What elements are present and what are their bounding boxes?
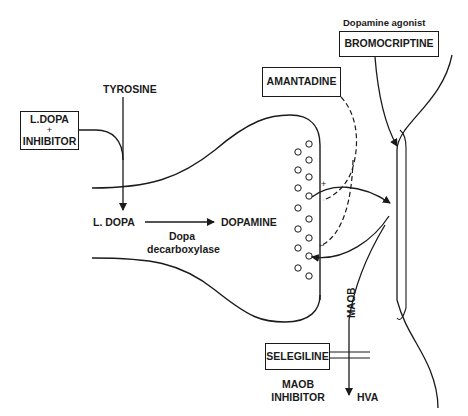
- diagram-canvas: [0, 0, 468, 416]
- ldopa-supply-line: [79, 130, 123, 160]
- vesicle: [295, 205, 301, 211]
- maob-label: MAOB: [347, 287, 357, 318]
- selegiline-box: SELEGILINE: [265, 343, 330, 370]
- amantadine-box: AMANTADINE: [262, 67, 341, 97]
- enzyme-label-line2: decarboxylase: [147, 243, 217, 256]
- amantadine-reuptake-dashed: [320, 160, 353, 246]
- dopamine-release-arrow: [312, 187, 390, 203]
- vesicle: [306, 235, 312, 241]
- minus-sign-reuptake: −: [319, 241, 324, 250]
- vesicle: [295, 226, 301, 232]
- vesicle: [295, 167, 301, 173]
- vesicle: [295, 265, 301, 271]
- amantadine-label: AMANTADINE: [267, 75, 337, 88]
- vesicle: [295, 185, 301, 191]
- vesicle: [306, 141, 312, 147]
- tyrosine-label: TYROSINE: [103, 84, 157, 95]
- presynaptic-terminal-upper: [92, 115, 320, 300]
- bromocriptine-caption: Dopamine agonist: [343, 18, 425, 28]
- maob-inhibitor-caption-line1: MAOB: [270, 378, 326, 391]
- vesicle: [295, 149, 301, 155]
- ldopa-label: L. DOPA: [93, 217, 135, 228]
- enzyme-label: Dopa decarboxylase: [147, 230, 217, 255]
- postsynaptic-membrane: [397, 55, 452, 408]
- plus-sign-release: +: [321, 180, 326, 189]
- dopamine-reuptake-arrow: [312, 216, 389, 258]
- vesicle: [295, 245, 301, 251]
- vesicle: [306, 174, 312, 180]
- dopamine-label: DOPAMINE: [221, 217, 277, 228]
- enzyme-label-line1: Dopa: [147, 230, 217, 243]
- vesicle: [306, 253, 312, 259]
- ldopa-inhibitor-box: L.DOPA + INHIBITOR: [20, 111, 79, 150]
- bromocriptine-arrow: [375, 57, 397, 146]
- plus-sign: +: [47, 126, 52, 135]
- vesicle-group: [295, 141, 312, 279]
- postsynaptic-receptor-layer: [397, 130, 406, 320]
- vesicle: [306, 157, 312, 163]
- presynaptic-terminal-lower: [92, 258, 320, 322]
- vesicle: [306, 193, 312, 199]
- ldopa-inhibitor-line3: INHIBITOR: [23, 135, 76, 148]
- maob-inhibitor-caption-line2: INHIBITOR: [270, 391, 326, 404]
- vesicle: [306, 273, 312, 279]
- vesicle: [306, 216, 312, 222]
- maob-inhibitor-caption: MAOB INHIBITOR: [270, 378, 326, 403]
- bromocriptine-box: BROMOCRIPTINE: [339, 31, 439, 57]
- bromocriptine-label: BROMOCRIPTINE: [344, 37, 433, 50]
- hva-label: HVA: [357, 392, 378, 403]
- selegiline-label: SELEGILINE: [266, 350, 328, 363]
